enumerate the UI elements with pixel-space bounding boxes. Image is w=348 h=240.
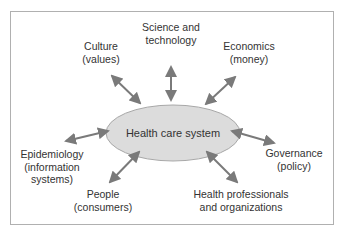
node-people-line2: (consumers) [74,201,132,214]
node-science: Science and technology [142,21,200,46]
node-people: People (consumers) [74,188,132,213]
node-economics: Economics (money) [223,40,274,65]
node-culture-line1: Culture [82,40,119,53]
node-epidemiology-line2: (information [20,161,83,174]
node-governance: Governance (policy) [265,147,322,172]
node-professionals: Health professionals and organizations [193,188,288,213]
node-science-line1: Science and [142,21,200,34]
node-professionals-line2: and organizations [193,201,288,214]
node-epidemiology-line3: systems) [20,173,83,186]
node-governance-line1: Governance [265,147,322,160]
node-epidemiology: Epidemiology (information systems) [20,148,83,186]
node-culture-line2: (values) [82,53,119,66]
center-label: Health care system [126,127,220,140]
node-science-line2: technology [142,34,200,47]
node-governance-line2: (policy) [265,160,322,173]
node-culture: Culture (values) [82,40,119,65]
node-professionals-line1: Health professionals [193,188,288,201]
node-people-line1: People [74,188,132,201]
node-epidemiology-line1: Epidemiology [20,148,83,161]
node-economics-line1: Economics [223,40,274,53]
node-economics-line2: (money) [223,53,274,66]
